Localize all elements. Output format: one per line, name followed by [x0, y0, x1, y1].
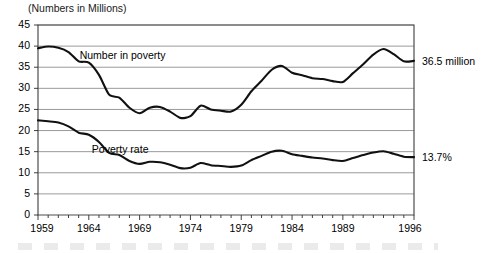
y-axis-tick-label: 35 [8, 61, 30, 72]
x-axis-tick-label: 1989 [323, 222, 363, 234]
x-axis-tick-label: 1959 [22, 222, 62, 234]
y-axis-tick-label: 30 [8, 82, 30, 93]
plot-area [0, 0, 486, 253]
page-artifact-strip [18, 243, 438, 250]
series-label-number-in-poverty: Number in poverty [80, 49, 166, 61]
y-axis-tick-label: 25 [8, 103, 30, 114]
y-axis-tick-label: 10 [8, 167, 30, 178]
end-annotation-poverty-rate: 13.7% [422, 151, 452, 163]
x-axis-tick-label: 1964 [69, 222, 109, 234]
x-axis-tick-label: 1974 [170, 222, 210, 234]
y-axis-tick-label: 0 [8, 209, 30, 220]
y-axis-tick-label: 45 [8, 19, 30, 30]
x-axis-tickmarks [38, 215, 414, 220]
y-axis-tick-label: 5 [8, 188, 30, 199]
y-axis-tick-label: 15 [8, 146, 30, 157]
x-axis-tick-label: 1996 [390, 222, 430, 234]
series-label-poverty-rate: Poverty rate [92, 143, 149, 155]
end-annotation-number-in-poverty: 36.5 million [422, 55, 475, 67]
y-axis-tick-label: 40 [8, 40, 30, 51]
y-axis-tick-label: 20 [8, 125, 30, 136]
x-axis-tick-label: 1969 [120, 222, 160, 234]
x-axis-tick-label: 1984 [272, 222, 312, 234]
poverty-chart: (Numbers in Millions) 051015202530354045… [0, 0, 486, 253]
x-axis-tick-label: 1979 [221, 222, 261, 234]
